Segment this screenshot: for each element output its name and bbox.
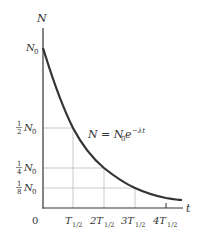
svg-text:0: 0 bbox=[32, 168, 36, 176]
y-label-quarter: 1 4 N 0 bbox=[16, 160, 36, 176]
svg-text:4T: 4T bbox=[152, 215, 167, 226]
svg-text:4: 4 bbox=[17, 168, 22, 176]
svg-text:2: 2 bbox=[17, 128, 21, 136]
svg-text:1: 1 bbox=[17, 180, 21, 188]
decay-chart: N t 0 N 0 1 2 N 0 1 4 N 0 1 8 N 0 T 1/2 … bbox=[0, 0, 198, 236]
svg-text:N = N: N = N bbox=[87, 128, 124, 141]
origin-label: 0 bbox=[32, 215, 38, 226]
x-label-t1: T 1/2 bbox=[65, 215, 82, 229]
x-label-t4: 4T 1/2 bbox=[152, 215, 177, 229]
svg-text:1/2: 1/2 bbox=[72, 221, 82, 229]
svg-text:8: 8 bbox=[17, 188, 21, 196]
svg-text:−λt: −λt bbox=[132, 127, 145, 135]
x-label-t3: 3T 1/2 bbox=[121, 215, 145, 229]
svg-text:1: 1 bbox=[17, 160, 21, 168]
svg-text:1/2: 1/2 bbox=[167, 221, 177, 229]
decay-curve bbox=[43, 48, 182, 200]
y-label-half: 1 2 N 0 bbox=[16, 120, 36, 136]
y-label-eighth: 1 8 N 0 bbox=[16, 180, 36, 196]
svg-text:0: 0 bbox=[32, 128, 36, 136]
svg-text:3T: 3T bbox=[121, 215, 135, 226]
equation-label: N = N 0 e −λt bbox=[87, 127, 145, 143]
svg-text:0: 0 bbox=[34, 48, 38, 56]
svg-text:1/2: 1/2 bbox=[135, 221, 145, 229]
svg-text:e: e bbox=[125, 128, 132, 141]
y-axis-label: N bbox=[36, 12, 47, 25]
y-label-n0: N 0 bbox=[25, 42, 38, 56]
svg-text:0: 0 bbox=[32, 188, 36, 196]
svg-text:1/2: 1/2 bbox=[104, 221, 114, 229]
svg-text:2T: 2T bbox=[89, 215, 104, 226]
x-label-t2: 2T 1/2 bbox=[89, 215, 114, 229]
svg-text:1: 1 bbox=[17, 120, 21, 128]
x-axis-label: t bbox=[186, 202, 191, 215]
